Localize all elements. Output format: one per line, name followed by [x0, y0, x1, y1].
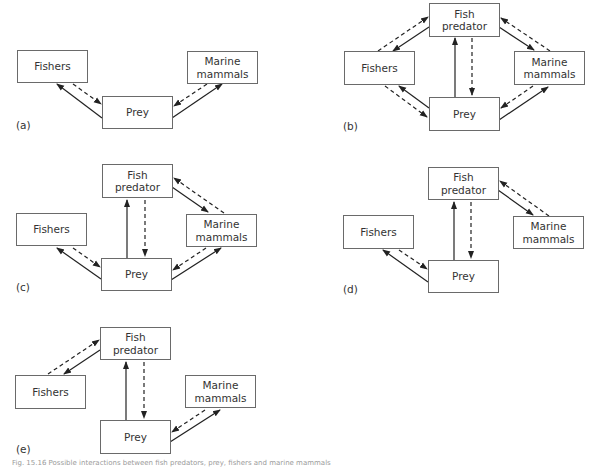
node-marine-mammals: Marine mammals: [187, 51, 258, 84]
node-fish-predator: Fish predator: [428, 167, 499, 200]
arrow-marine-to-fishpred: [500, 181, 549, 216]
arrow-marine-to-fishpred: [501, 18, 550, 51]
arrow-prey-to-marine: [170, 410, 220, 442]
node-marine-mammals: Marine mammals: [186, 214, 257, 247]
arrow-fishers-to-prey: [73, 84, 101, 104]
node-fishers: Fishers: [15, 375, 86, 409]
node-fishers: Fishers: [344, 51, 415, 85]
arrow-fishers-to-prey: [399, 250, 427, 269]
arrow-marine-to-prey: [501, 86, 533, 108]
arrow-fishpred-to-marine: [498, 190, 533, 215]
node-fishers: Fishers: [17, 50, 88, 83]
arrow-fishers-to-fishpred: [378, 17, 428, 51]
panel-label: (a): [16, 119, 31, 131]
arrow-marine-to-prey: [172, 410, 205, 432]
arrow-fishers-to-fishpred: [48, 340, 99, 374]
figure-caption: Fig. 15.16 Possible interactions between…: [12, 459, 331, 467]
node-prey: Prey: [100, 420, 171, 454]
node-fish-predator: Fish predator: [429, 3, 500, 37]
node-prey: Prey: [102, 96, 173, 129]
panel-label: (e): [16, 443, 31, 455]
arrow-fishpred-to-fishers: [393, 27, 429, 51]
node-fish-predator: Fish predator: [102, 164, 173, 198]
arrow-prey-to-fishers: [399, 86, 429, 108]
arrow-fishpred-to-marine: [172, 187, 208, 212]
node-marine-mammals: Marine mammals: [185, 375, 256, 408]
arrow-fishers-to-prey: [73, 248, 100, 267]
node-fishers: Fishers: [16, 213, 87, 246]
node-marine-mammals: Marine mammals: [514, 51, 585, 85]
arrow-prey-to-marine: [171, 248, 221, 280]
panel-label: (c): [16, 281, 30, 293]
arrow-marine-mammals-to-prey: [174, 84, 207, 106]
arrow-fishpred-to-marine: [499, 27, 534, 50]
node-fishers: Fishers: [343, 215, 414, 249]
node-fish-predator: Fish predator: [100, 327, 171, 360]
node-prey: Prey: [429, 97, 500, 131]
node-prey: Prey: [428, 260, 499, 293]
panel-label: (d): [343, 283, 358, 295]
node-prey: Prey: [101, 258, 172, 291]
arrow-marine-to-fishpred: [174, 178, 224, 213]
arrow-marine-to-prey: [173, 248, 206, 270]
arrow-prey-to-marine-mammals: [172, 84, 222, 118]
arrow-prey-to-marine: [499, 87, 548, 120]
panel-label: (b): [343, 120, 358, 132]
node-marine-mammals: Marine mammals: [513, 216, 584, 249]
arrow-fishpred-to-fishers: [64, 350, 100, 374]
